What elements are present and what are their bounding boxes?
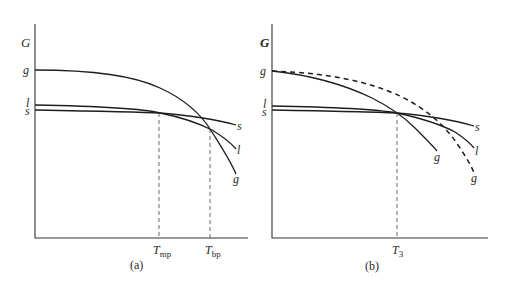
panel-a-tmp-label: Tmp [153, 243, 172, 259]
panel-b-curve-s [272, 110, 474, 126]
panel-b: G g l s g s l g T3 (b) [260, 24, 488, 273]
panel-a-left-g: g [23, 63, 29, 77]
panel-b-left-s: s [262, 105, 267, 119]
panel-a-right-g: g [233, 172, 239, 186]
panel-b-right-g-solid: g [434, 150, 440, 164]
panel-b-right-s: s [475, 120, 480, 134]
panel-a-axes [35, 24, 248, 238]
panel-a: G g l s s l g Tmp Tbp (a) [21, 24, 248, 272]
panel-a-curve-g [35, 70, 236, 174]
panel-a-left-s: s [25, 104, 30, 118]
panel-a-right-l: l [237, 143, 241, 157]
panel-a-tbp-label: Tbp [205, 243, 221, 259]
panel-b-t3-label: T3 [392, 243, 404, 259]
panel-a-right-s: s [237, 119, 242, 133]
panel-a-caption: (a) [130, 258, 143, 272]
panel-b-right-g-dashed: g [471, 171, 477, 185]
panel-b-axes [272, 24, 488, 238]
panel-a-y-label: G [21, 35, 31, 50]
gibbs-energy-diagram: G g l s s l g Tmp Tbp (a) G g l s g s l … [0, 0, 507, 282]
panel-b-curve-g-dashed [272, 71, 474, 173]
panel-b-left-g: g [260, 64, 266, 78]
panel-b-caption: (b) [365, 259, 379, 273]
panel-b-y-label: G [260, 35, 270, 50]
panel-b-right-l: l [475, 144, 479, 158]
